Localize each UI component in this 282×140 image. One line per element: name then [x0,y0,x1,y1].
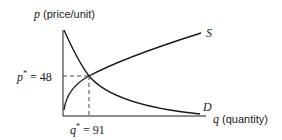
y-axis-symbol: p [34,7,40,21]
x-axis-unit: (quantity) [222,113,268,125]
p-star-sup: * [23,69,27,78]
y-axis-label: p (price/unit) [34,8,95,20]
equilibrium-quantity-label: q* = 91 [70,123,105,136]
equilibrium-price-label: p* = 48 [17,70,52,83]
demand-curve [64,30,200,114]
supply-curve [64,33,201,110]
y-axis-unit: (price/unit) [43,8,95,20]
supply-label: S [206,27,212,39]
p-star-value: = 48 [30,70,52,84]
x-axis-symbol: q [213,112,219,126]
demand-label: D [203,101,212,113]
x-axis-label: q (quantity) [213,113,268,125]
q-star-value: = 91 [83,123,105,137]
q-star-sup: * [76,122,80,131]
